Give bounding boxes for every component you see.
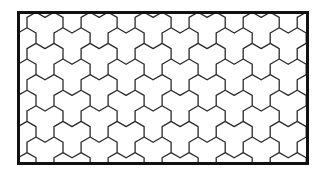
tessellation-figure — [17, 11, 309, 165]
tile-edges — [17, 11, 309, 165]
tessellation-svg — [17, 11, 309, 165]
